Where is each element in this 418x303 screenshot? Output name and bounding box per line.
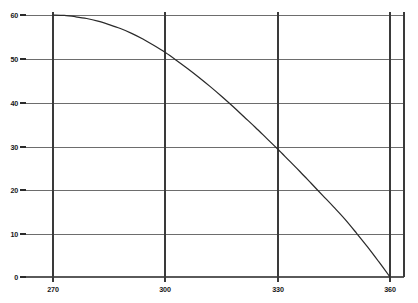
ytick-label-40: 40 [10, 99, 18, 108]
data-curve-line [53, 15, 390, 277]
line-chart: 60 50 40 30 20 10 0 270 300 330 360 [0, 0, 418, 303]
xtick-label-300: 300 [159, 285, 171, 294]
xtick-label-330: 330 [272, 285, 284, 294]
ytick-label-20: 20 [10, 186, 18, 195]
ytick-label-50: 50 [10, 55, 18, 64]
chart-container: 60 50 40 30 20 10 0 270 300 330 360 [0, 0, 418, 303]
y-axis-tick-marks [20, 15, 26, 277]
y-axis-tick-labels: 60 50 40 30 20 10 0 [10, 11, 18, 282]
xtick-label-270: 270 [47, 285, 59, 294]
ytick-label-10: 10 [10, 230, 18, 239]
ytick-label-30: 30 [10, 143, 18, 152]
x-axis-tick-labels: 270 300 330 360 [47, 285, 396, 294]
xtick-label-360: 360 [384, 285, 396, 294]
ytick-label-60: 60 [10, 11, 18, 20]
horizontal-gridlines [25, 15, 404, 277]
ytick-label-0: 0 [14, 273, 18, 282]
